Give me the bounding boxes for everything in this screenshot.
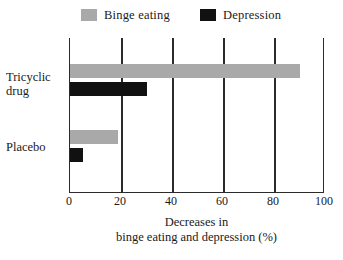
category-label-tricyclic-line1: Tricyclic [6, 71, 66, 85]
x-axis-title-line1: Decreases in [69, 215, 324, 230]
legend-label-binge-eating: Binge eating [104, 9, 170, 22]
gridline-60 [223, 38, 225, 192]
plot-area [69, 38, 324, 193]
x-axis-ticks: 0 20 40 60 80 100 [69, 195, 324, 211]
category-label-tricyclic-drug: Tricyclic drug [6, 71, 66, 98]
gridline-20 [121, 38, 123, 192]
legend-swatch-binge-eating [81, 9, 97, 21]
legend-label-depression: Depression [223, 9, 281, 22]
x-tick-40: 40 [165, 195, 177, 207]
chart-legend: Binge eating Depression [69, 9, 343, 29]
x-tick-0: 0 [66, 195, 72, 207]
legend-item-depression: Depression [200, 9, 281, 22]
x-tick-20: 20 [114, 195, 126, 207]
bar-tricyclic-binge-eating [70, 64, 300, 78]
category-label-tricyclic-line2: drug [6, 85, 66, 99]
category-label-placebo: Placebo [6, 141, 66, 155]
gridline-80 [274, 38, 276, 192]
x-tick-100: 100 [315, 195, 333, 207]
category-label-placebo-text: Placebo [6, 141, 66, 155]
bar-tricyclic-depression [70, 82, 147, 96]
bar-placebo-binge-eating [70, 130, 118, 144]
x-tick-60: 60 [216, 195, 228, 207]
bar-placebo-depression [70, 148, 83, 162]
x-axis-title: Decreases in binge eating and depression… [69, 215, 324, 245]
bar-chart: Binge eating Depression Tricyclic drug P… [0, 0, 343, 260]
x-tick-80: 80 [267, 195, 279, 207]
x-axis-title-line2: binge eating and depression (%) [69, 230, 324, 245]
legend-swatch-depression [200, 9, 216, 21]
legend-item-binge-eating: Binge eating [81, 9, 170, 22]
gridline-40 [172, 38, 174, 192]
